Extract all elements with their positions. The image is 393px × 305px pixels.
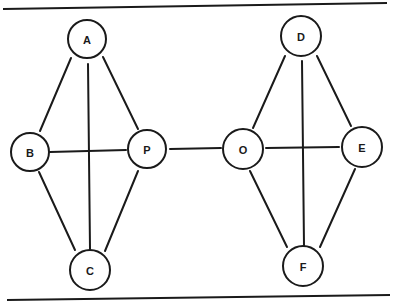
node-o: O — [223, 129, 263, 169]
graph-diagram: ABPCODEF — [0, 0, 393, 305]
edge-b-c — [39, 172, 75, 250]
edge-a-p — [103, 57, 138, 129]
top-rule — [3, 3, 387, 9]
edge-a-c — [88, 64, 90, 249]
edges-group — [39, 56, 355, 251]
node-label: E — [358, 142, 365, 154]
nodes-group: ABPCODEF — [11, 16, 382, 290]
edge-e-f — [320, 169, 355, 247]
node-c: C — [70, 250, 110, 290]
node-label: P — [143, 144, 150, 156]
edge-a-b — [40, 58, 71, 131]
node-b: B — [11, 133, 49, 171]
node-label: F — [300, 261, 307, 273]
edge-d-e — [317, 56, 351, 126]
node-d: D — [281, 16, 321, 56]
edge-p-o — [170, 148, 221, 149]
node-f: F — [283, 246, 323, 286]
node-label: D — [297, 31, 305, 43]
node-a: A — [68, 20, 106, 58]
node-label: C — [86, 265, 94, 277]
edge-p-c — [105, 171, 138, 251]
bottom-rule — [7, 295, 390, 300]
edge-b-p — [50, 150, 126, 152]
node-label: A — [83, 34, 91, 46]
edge-d-f — [302, 61, 304, 246]
edge-o-f — [250, 171, 287, 247]
node-e: E — [342, 127, 382, 167]
edge-o-e — [266, 147, 339, 148]
node-label: B — [26, 147, 34, 159]
edge-d-o — [253, 56, 285, 128]
node-label: O — [239, 144, 248, 156]
node-p: P — [128, 130, 166, 168]
